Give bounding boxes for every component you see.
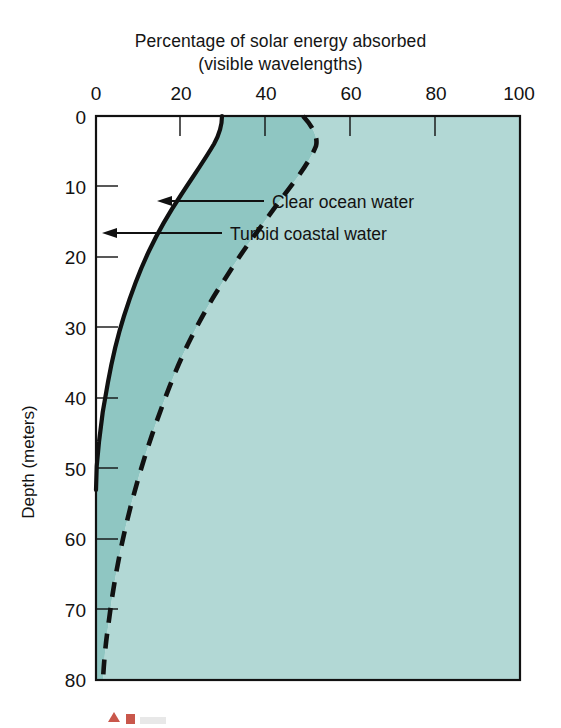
ytick-label-50: 50 <box>65 459 86 480</box>
annotation-turbid-coastal-water-arrowhead <box>102 228 117 238</box>
ytick-label-10: 10 <box>65 177 86 198</box>
ytick-label-80: 80 <box>65 670 86 691</box>
xtick-label-80: 80 <box>425 83 446 104</box>
xtick-label-100: 100 <box>503 83 535 104</box>
annotation-turbid-coastal-water-label: Turbid coastal water <box>230 224 387 244</box>
figure-solar-absorption: Percentage of solar energy absorbed (vis… <box>0 0 561 728</box>
ytick-label-30: 30 <box>65 318 86 339</box>
caption-crop-strip <box>0 708 561 728</box>
annotation-clear-ocean-water-label: Clear ocean water <box>272 192 414 212</box>
ytick-label-70: 70 <box>65 600 86 621</box>
ytick-label-40: 40 <box>65 388 86 409</box>
chart-canvas: 0 20 40 60 80 100 0 10 20 30 40 50 60 70… <box>0 0 561 728</box>
xtick-label-60: 60 <box>340 83 361 104</box>
annotation-clear-ocean-water-arrowhead <box>157 196 172 206</box>
annotation-turbid-coastal-water: Turbid coastal water <box>102 224 387 244</box>
ytick-label-60: 60 <box>65 529 86 550</box>
caption-crop-glyphs <box>0 708 561 728</box>
y-axis-title: Depth (meters) <box>19 405 38 518</box>
xtick-label-40: 40 <box>255 83 276 104</box>
y-axis-tick-labels: 0 10 20 30 40 50 60 70 80 <box>65 107 86 691</box>
xtick-label-0: 0 <box>91 83 102 104</box>
ytick-label-20: 20 <box>65 247 86 268</box>
x-axis-tick-labels: 0 20 40 60 80 100 <box>91 83 535 104</box>
ytick-label-0: 0 <box>75 107 86 128</box>
xtick-label-20: 20 <box>170 83 191 104</box>
